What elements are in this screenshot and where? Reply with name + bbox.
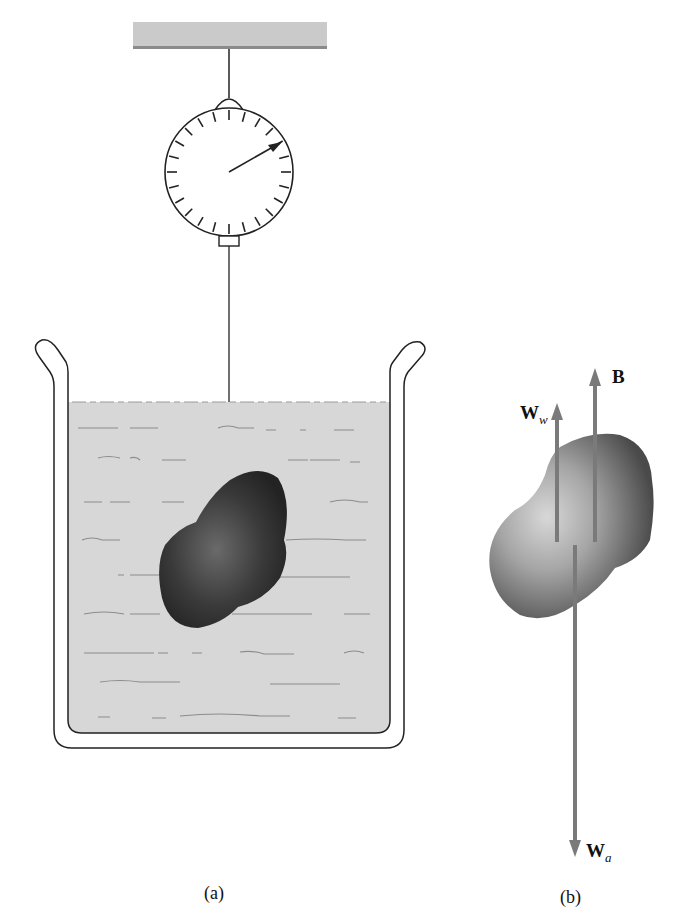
fbd-object: [489, 434, 653, 618]
caption-a: (a): [204, 883, 224, 904]
diagram-canvas: [0, 0, 685, 922]
ceiling-support: [133, 22, 327, 49]
spring-scale-icon: [165, 99, 293, 246]
arrow-head-ww-icon: [551, 403, 563, 420]
caption-b: (b): [560, 887, 581, 908]
arrow-head-b-icon: [589, 368, 601, 386]
arrow-head-wa-icon: [569, 840, 581, 857]
label-weight-water: Ww: [520, 402, 548, 424]
label-buoyant-force: B: [612, 366, 625, 388]
label-weight-air: Wa: [586, 840, 612, 862]
